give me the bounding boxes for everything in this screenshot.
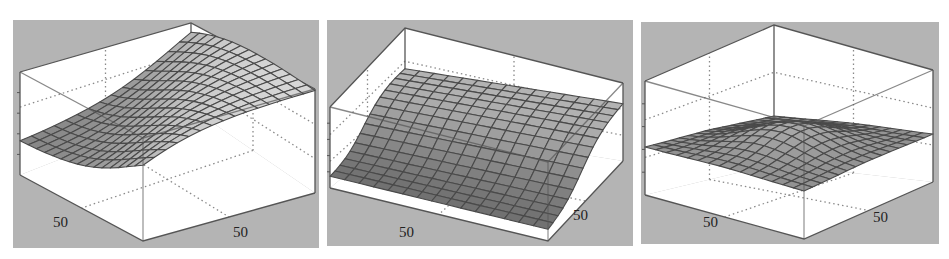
y-tick-label: 50 [873, 209, 888, 225]
x-tick-label: 50 [703, 214, 718, 230]
y-tick-label: 50 [233, 224, 248, 240]
surface-plot-middle: 5050 [327, 20, 633, 246]
surface-plot-left-canvas: 5050 [13, 20, 319, 248]
surface-plot-right: 5050 [641, 22, 939, 244]
surface-plot-right-canvas: 5050 [641, 22, 939, 244]
surface-plot-middle-canvas: 5050 [327, 20, 633, 246]
x-tick-label: 50 [53, 214, 68, 230]
x-tick-label: 50 [399, 224, 414, 240]
surface-plot-left: 5050 [13, 20, 319, 248]
y-tick-label: 50 [573, 207, 588, 223]
